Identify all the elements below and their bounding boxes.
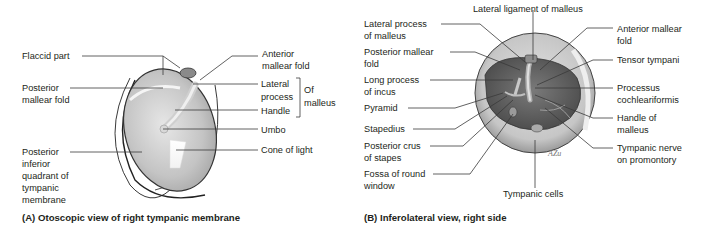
malleus-bracket: [296, 78, 300, 117]
label-anterior-mallear-fold: Anterior mallear fold: [262, 48, 310, 72]
label-pyramid: Pyramid: [364, 102, 398, 114]
label-fossa-of-round-window: Fossa of round window: [364, 168, 425, 192]
label-lateral-process-of-malleus: Lateral process of malleus: [364, 18, 427, 42]
label-flaccid-part: Flaccid part: [22, 50, 70, 62]
label-posterior-mallear-fold: Posterior mallear fold: [22, 82, 70, 106]
label-anterior-mallear-fold-b: Anterior mallear fold: [617, 23, 682, 47]
label-lateral-ligament-of-malleus: Lateral ligament of malleus: [473, 3, 583, 15]
label-cone-of-light: Cone of light: [261, 144, 313, 156]
label-lateral-process: Lateral process: [261, 78, 293, 104]
caption-a: (A) Otoscopic view of right tympanic mem…: [22, 212, 240, 223]
label-umbo: Umbo: [261, 124, 286, 136]
label-of-malleus: Of malleus: [304, 84, 336, 110]
artist-signature: AZu: [547, 149, 561, 158]
panel-b-inferolateral-view: AZu Lateral ligament of malleus Lateral …: [355, 0, 714, 229]
label-tympanic-nerve-on-promontory: Tympanic nerve on promontory: [617, 142, 682, 166]
label-long-process-of-incus: Long process of incus: [364, 74, 419, 98]
panel-a-otoscopic-view: Flaccid part Posterior mallear fold Post…: [0, 0, 355, 229]
label-tensor-tympani: Tensor tympani: [617, 54, 679, 66]
label-handle-of-malleus: Handle of malleus: [617, 112, 656, 136]
label-posterior-mallear-fold-b: Posterior mallear fold: [364, 46, 433, 70]
label-posterior-inferior-quadrant: Posterior inferior quadrant of tympanic …: [22, 146, 69, 206]
label-stapedius: Stapedius: [364, 123, 405, 135]
label-tympanic-cells: Tympanic cells: [503, 188, 563, 200]
label-handle: Handle: [261, 105, 290, 117]
label-processus-cochleariformis: Processus cochleariformis: [617, 82, 679, 106]
caption-b: (B) Inferolateral view, right side: [364, 212, 507, 223]
label-posterior-crus-of-stapes: Posterior crus of stapes: [364, 140, 421, 164]
